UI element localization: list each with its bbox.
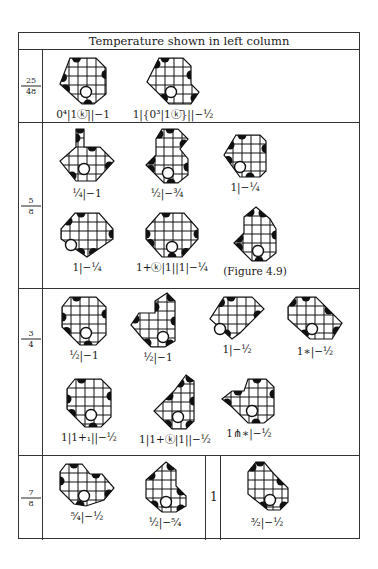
denominator: 8 (21, 499, 41, 508)
temperature-fraction: 25 48 (21, 77, 41, 96)
board-diagram (218, 375, 280, 427)
position-label: 1|−½ (197, 343, 277, 355)
board-diagram (127, 289, 189, 351)
position-label: 1∗|−½ (275, 345, 355, 357)
temperature-one: 1 (210, 490, 218, 504)
position-cell: 1+ⓚ|1||1|−¼ (127, 209, 217, 273)
board-diagram (56, 125, 118, 187)
numerator: 5 (21, 196, 41, 206)
board-diagram (56, 460, 118, 510)
position-label: ⁵⁄₄|−½ (47, 510, 127, 522)
board-diagram (143, 54, 203, 108)
board-diagram (63, 375, 115, 431)
position-label: ½|−¾ (127, 187, 207, 199)
position-cell: 1|−¼ (47, 209, 127, 273)
board-diagram (242, 458, 292, 516)
position-cell: 1|{0³|1ⓚ̄}||−½ (123, 54, 223, 120)
temperature-cell: 3 4 (19, 289, 43, 455)
table-header: Temperature shown in left column (19, 33, 359, 50)
position-cell: ½|−1 (49, 293, 119, 361)
position-label: 1|−¼ (47, 261, 127, 273)
position-cell: 1∗|−½ (275, 293, 355, 357)
board-diagram (206, 293, 268, 343)
column-divider (220, 456, 221, 540)
board-diagram (150, 371, 200, 433)
position-cell: (Figure 4.9) (215, 203, 295, 277)
position-cell: 1|1+₁||−½ (49, 375, 129, 443)
numerator: 7 (21, 489, 41, 499)
figure-reference: (Figure 4.9) (215, 265, 295, 277)
board-diagram (142, 125, 192, 187)
position-cell: ½|−⁵⁄₄ (127, 458, 203, 528)
temperature-fraction: 5 8 (21, 196, 41, 215)
game-position-table: Temperature shown in left column 25 48 0… (18, 32, 360, 539)
board-diagram (220, 131, 270, 181)
temperature-cell: 25 48 (19, 50, 43, 122)
board-diagram (58, 293, 110, 349)
position-cell: 1|−¼ (205, 131, 285, 193)
temperature-fraction: 7 8 (21, 489, 41, 508)
table-row-3-4: 3 4 ½|−1 ½|−1 1|−½ 1∗|−½ 1|1+₁||−½ 1|1+ⓚ… (19, 289, 359, 456)
board-diagram (56, 54, 110, 108)
numerator: 25 (21, 77, 41, 87)
position-cell: ¼|−1 (47, 125, 127, 199)
table-row-7-8: 7 8 ⁵⁄₄|−½ ½|−⁵⁄₄ 1 ³⁄₂|−½ (19, 456, 359, 540)
column-divider (205, 456, 206, 540)
position-label: ½|−1 (123, 351, 193, 363)
board-diagram (230, 203, 280, 265)
position-cell: ½|−¾ (127, 125, 207, 199)
position-cell: 1|−½ (197, 293, 277, 355)
position-label: 1+ⓚ|1||1|−¼ (127, 261, 217, 273)
position-label: 1⋔∗|−½ (209, 427, 289, 439)
position-label: ½|−1 (49, 349, 119, 361)
position-cell: 0⁴|1ⓚ̄||−1 (43, 54, 123, 120)
temperature-cell: 7 8 (19, 456, 43, 540)
temperature-cell: 5 8 (19, 123, 43, 288)
table-row-25-48: 25 48 0⁴|1ⓚ̄||−1 1|{0³|1ⓚ̄}||−½ (19, 50, 359, 123)
denominator: 4 (21, 339, 41, 348)
position-cell: ½|−1 (123, 289, 193, 363)
denominator: 48 (21, 87, 41, 96)
position-label: ½|−⁵⁄₄ (127, 516, 203, 528)
board-diagram (142, 209, 202, 261)
board-diagram (140, 458, 190, 516)
position-label: 1|−¼ (205, 181, 285, 193)
position-cell: ³⁄₂|−½ (229, 458, 305, 528)
board-diagram (284, 293, 346, 345)
table-row-5-8: 5 8 ¼|−1 ½|−¾ 1|−¼ 1|−¼ 1+ⓚ|1||1|−¼ (Fig… (19, 123, 359, 289)
board-diagram (57, 209, 117, 261)
position-label: 0⁴|1ⓚ̄||−1 (43, 108, 123, 120)
position-label: 1|1+ⓚ|1||−½ (129, 433, 221, 445)
position-cell: 1|1+ⓚ|1||−½ (129, 371, 221, 445)
position-cell: 1⋔∗|−½ (209, 375, 289, 439)
position-cell: ⁵⁄₄|−½ (47, 460, 127, 522)
denominator: 8 (21, 206, 41, 215)
position-label: ³⁄₂|−½ (229, 516, 305, 528)
numerator: 3 (21, 329, 41, 339)
position-label: 1|{0³|1ⓚ̄}||−½ (123, 108, 223, 120)
position-label: 1|1+₁||−½ (49, 431, 129, 443)
position-label: ¼|−1 (47, 187, 127, 199)
temperature-fraction: 3 4 (21, 329, 41, 348)
